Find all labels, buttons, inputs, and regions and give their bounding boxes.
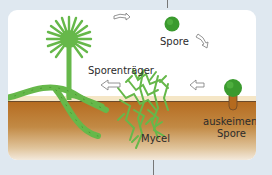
hyphae-icon xyxy=(8,87,106,136)
label-mycelium: Mycel xyxy=(141,133,170,144)
divider-line-bottom xyxy=(153,160,154,175)
germinating-spore-icon xyxy=(224,79,242,110)
divider-line-top xyxy=(167,0,168,8)
label-sporangiophore: Sporenträger xyxy=(88,65,154,76)
label-germinating-spore-line1: auskeimende xyxy=(203,116,256,127)
label-spore: Spore xyxy=(160,36,189,47)
curved-arrow-down-right-icon xyxy=(196,34,208,48)
diagram-panel: Spore Sporenträger auskeimende Spore Myc… xyxy=(8,10,256,160)
curved-arrow-right-icon xyxy=(114,13,130,20)
label-germinating-spore-line2: Spore xyxy=(217,128,246,139)
arrow-left-icon xyxy=(190,80,204,90)
